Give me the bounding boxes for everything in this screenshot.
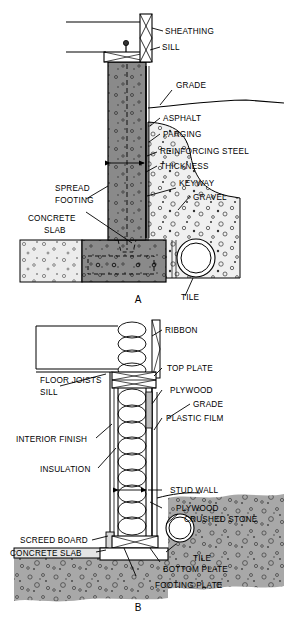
label-floor-joists: FLOOR JOISTS <box>40 376 102 385</box>
label-plastic-film: PLASTIC FILM <box>166 414 223 423</box>
concrete-slab-a <box>20 240 82 282</box>
label-spread-footing-line2: FOOTING <box>55 196 94 205</box>
drain-tile-inner-a <box>181 243 211 273</box>
label-keyway: KEYWAY <box>179 179 215 188</box>
spread-footing-a <box>82 240 166 282</box>
label-concrete-slab-line1: CONCRETE <box>28 214 76 223</box>
label-thickness: THICKNESS <box>160 162 209 171</box>
construction-detail-drawing: SHEATHING SILL GRADE ASPHALT PARGING REI… <box>0 0 284 626</box>
label-sheathing: SHEATHING <box>165 27 214 36</box>
anchor-bolt-head <box>123 40 128 45</box>
label-interior-finish: INTERIOR FINISH <box>16 435 87 444</box>
sheathing-board-a <box>140 14 152 62</box>
panel-b-figure-label: B <box>135 602 142 613</box>
label-grade-a: GRADE <box>176 81 206 90</box>
label-bottom-plate: BOTTOM PLATE <box>163 565 228 574</box>
ribbon-board-b <box>152 320 160 378</box>
label-parging: PARGING <box>163 130 202 139</box>
label-spread-footing-line1: SPREAD <box>55 184 90 193</box>
label-grade-b: GRADE <box>193 400 223 409</box>
label-ribbon: RIBBON <box>165 326 198 335</box>
label-top-plate: TOP PLATE <box>167 364 213 373</box>
label-crushed-stone: CRUSHED STONE <box>184 515 258 524</box>
panel-a-figure-label: A <box>135 294 142 305</box>
label-concrete-slab-b: CONCRETE SLAB <box>10 549 82 558</box>
label-footing-plate: FOOTING PLATE <box>155 581 223 590</box>
label-gravel: GRAVEL <box>193 193 227 202</box>
label-plywood-lower: PLYWOOD <box>176 504 219 513</box>
label-reinforcing-steel: REINFORCING STEEL <box>160 147 249 156</box>
label-sill-b: SILL <box>40 388 58 397</box>
label-sill-a: SILL <box>162 43 180 52</box>
label-tile-a: TILE <box>181 293 199 302</box>
figure-container: SHEATHING SILL GRADE ASPHALT PARGING REI… <box>0 0 284 626</box>
label-concrete-slab-line2: SLAB <box>44 226 66 235</box>
label-insulation: INSULATION <box>40 465 91 474</box>
label-asphalt: ASPHALT <box>163 114 201 123</box>
label-tile-b: TILE <box>193 554 211 563</box>
label-plywood-upper: PLYWOOD <box>170 386 213 395</box>
label-stud-wall: STUD WALL <box>170 486 219 495</box>
plywood-upper-patch-b <box>146 392 152 428</box>
label-screed-board: SCREED BOARD <box>20 536 88 545</box>
